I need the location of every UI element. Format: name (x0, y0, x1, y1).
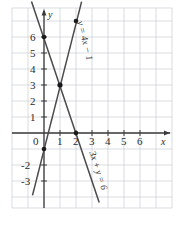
point-0-6 (42, 35, 47, 40)
y-tick-label-4: 4 (30, 64, 36, 75)
origin-label: 0 (33, 136, 39, 147)
graph-figure: 6 5 4 3 2 1 -2 -3 0 1 2 3 4 5 6 x y y = … (0, 0, 183, 228)
coordinate-plot (0, 0, 183, 228)
x-tick-label-3: 3 (89, 136, 95, 147)
point-1-3 (57, 82, 62, 87)
x-axis-name: x (161, 137, 165, 147)
y-tick-label-2: 2 (30, 96, 36, 107)
y-tick-label-1: 1 (30, 112, 36, 123)
y-tick-label-neg2: -2 (21, 160, 30, 171)
y-tick-label-6: 6 (30, 32, 36, 43)
x-tick-label-1: 1 (57, 136, 63, 147)
line-y-equals-4x-minus-1 (33, 2, 82, 196)
x-tick-label-4: 4 (105, 136, 111, 147)
y-axis-name: y (48, 10, 52, 20)
x-tick-label-2: 2 (73, 136, 79, 147)
x-tick-label-5: 5 (121, 136, 127, 147)
y-tick-label-neg3: -3 (21, 176, 30, 187)
x-tick-label-6: 6 (137, 136, 143, 147)
grid-vertical-lines (12, 8, 172, 208)
line-3x-plus-y-equals-6 (32, 1, 100, 202)
y-tick-label-3: 3 (30, 80, 36, 91)
point-0-neg1 (42, 147, 47, 152)
y-tick-label-5: 5 (30, 48, 36, 59)
